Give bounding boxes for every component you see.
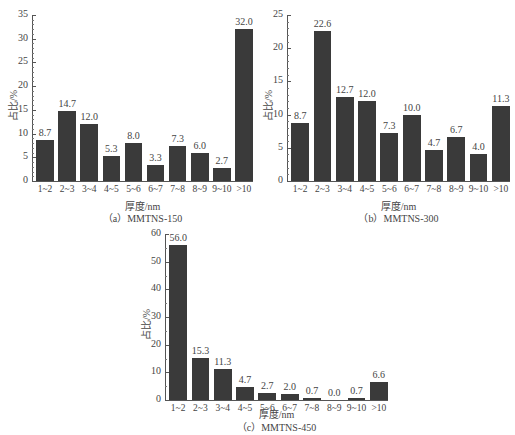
bar-8-9 [447,137,465,181]
y-tick-label: 30 [8,32,28,43]
y-tick-label: 10 [141,365,161,376]
y-minor-tick [32,105,34,106]
y-minor-tick [32,58,34,59]
y-minor-tick [287,135,289,136]
y-minor-tick [287,101,289,102]
y-minor-tick [32,67,34,68]
y-minor-tick [32,153,34,154]
bar-5-6 [258,393,276,400]
y-minor-tick [32,148,34,149]
bar-value-label: 6.6 [364,369,394,380]
bar-value-label: 4.0 [464,141,494,152]
bar-6-7 [281,394,299,400]
y-minor-tick [165,248,167,249]
y-minor-tick [287,42,289,43]
bar-1-2 [169,245,187,400]
bar-5-6 [125,143,143,181]
bar-value-label: 11.3 [208,356,238,367]
y-minor-tick [287,88,289,89]
y-minor-tick [32,138,34,139]
y-tick [32,86,36,87]
bar-8-9 [191,153,209,181]
bar-7-8 [303,398,321,400]
bar--10 [492,106,510,181]
bar--10 [235,29,253,181]
y-tick [32,39,36,40]
y-tick-label: 10 [8,127,28,138]
y-minor-tick [287,168,289,169]
bar-9-10 [348,398,366,400]
y-tick-label: 15 [263,74,283,85]
y-minor-tick [287,154,289,155]
y-axis [287,15,288,181]
y-minor-tick [32,29,34,30]
y-axis-label: 占比/% [5,86,20,126]
bar-4-5 [358,101,376,181]
bar-9-10 [213,168,231,181]
y-tick [287,181,291,182]
y-minor-tick [32,143,34,144]
y-minor-tick [32,124,34,125]
bar-value-label: 15.3 [186,345,216,356]
y-tick-label: 0 [263,174,283,185]
y-tick [165,400,169,401]
bar-value-label: 5.3 [97,143,127,154]
bar-value-label: 0.7 [342,385,372,396]
y-minor-tick [287,108,289,109]
bar-value-label: 12.0 [352,88,382,99]
y-minor-tick [287,161,289,162]
bar-value-label: 11.3 [486,93,515,104]
y-minor-tick [165,331,167,332]
y-tick-label: 20 [263,41,283,52]
y-minor-tick [287,55,289,56]
y-minor-tick [32,115,34,116]
bar-7-8 [425,150,443,181]
bar-1-2 [36,140,54,181]
bar-value-label: 22.6 [308,18,338,29]
y-minor-tick [165,303,167,304]
x-axis [287,181,510,182]
y-minor-tick [32,20,34,21]
y-minor-tick [165,359,167,360]
y-minor-tick [287,22,289,23]
y-minor-tick [287,28,289,29]
y-axis-label: 占比/% [260,86,275,126]
y-tick-label: 25 [8,55,28,66]
x-tick-label: >10 [227,184,261,194]
bar-2-3 [58,111,76,181]
bar-value-label: 8.0 [119,130,149,141]
y-tick-label: 35 [8,8,28,19]
bar-3-4 [214,369,232,400]
x-axis [165,400,388,401]
y-minor-tick [32,43,34,44]
y-minor-tick [32,176,34,177]
y-tick-label: 40 [141,282,161,293]
y-minor-tick [32,53,34,54]
y-minor-tick [287,68,289,69]
y-tick [287,81,291,82]
bar-value-label: 2.7 [207,155,237,166]
y-tick-label: 5 [8,150,28,161]
y-minor-tick [32,24,34,25]
y-minor-tick [32,81,34,82]
y-minor-tick [32,77,34,78]
bar-value-label: 12.0 [74,111,104,122]
bar-value-label: 10.0 [397,102,427,113]
y-minor-tick [287,95,289,96]
y-minor-tick [32,48,34,49]
y-axis-label: 占比/% [138,305,153,345]
y-tick [32,181,36,182]
y-minor-tick [165,386,167,387]
bar-5-6 [380,133,398,181]
bar--10 [370,382,388,400]
bar-6-7 [147,165,165,181]
y-minor-tick [32,162,34,163]
y-tick [287,15,291,16]
x-tick-label: >10 [484,184,515,194]
bar-1-2 [291,123,309,181]
y-tick-label: 60 [141,227,161,238]
y-tick [32,110,36,111]
chart-caption: （b）MMTNS-300 [329,210,469,225]
y-tick-label: 0 [8,174,28,185]
bar-2-3 [192,358,210,400]
